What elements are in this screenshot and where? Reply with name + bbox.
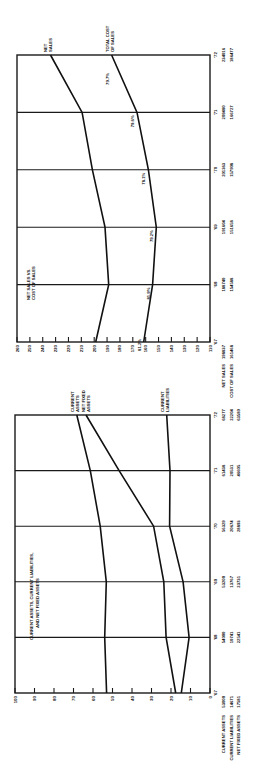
tick-label: 80 xyxy=(52,695,57,700)
tick-label: 140 xyxy=(169,344,174,352)
percent-annotation: 78.1% xyxy=(141,173,146,185)
row-value: 10741 xyxy=(229,631,234,643)
row-value: 61438 xyxy=(221,464,226,476)
tick-label: 0 xyxy=(208,695,213,698)
row-label: CURRENT LIABILITIES xyxy=(229,715,234,761)
chart-title: COST OF SALES xyxy=(31,266,36,300)
legend-net-fixed-assets: ASSETS xyxy=(86,395,91,412)
category-label: '72 xyxy=(213,411,218,417)
plot-frame xyxy=(15,415,210,693)
legend-cost-of-sales: OF SALES xyxy=(110,31,115,52)
category-label: '71 xyxy=(213,467,218,473)
percent-annotation: 79.6% xyxy=(130,115,135,127)
row-value: 53200 xyxy=(221,575,226,587)
row-value: 28893 xyxy=(236,520,241,532)
row-value: 20531 xyxy=(229,464,234,476)
row-value: 151658 xyxy=(229,220,234,235)
category-label: '67 xyxy=(213,689,218,695)
category-label: '71 xyxy=(213,109,218,115)
tick-label: 190 xyxy=(105,344,110,352)
row-label: COST OF SALES xyxy=(229,364,234,398)
chart-title: CURRENT ASSETS, CURRENT LIABILITIES, xyxy=(29,553,34,640)
series-line-current-assets xyxy=(77,415,107,693)
tick-label: 180 xyxy=(117,344,122,352)
tick-label: 40 xyxy=(130,695,135,700)
category-label: '69 xyxy=(213,578,218,584)
row-value: 166727 xyxy=(229,105,234,120)
series-line-net-fixed-assets xyxy=(86,415,176,693)
category-label: '67 xyxy=(213,338,218,344)
category-label: '72 xyxy=(213,51,218,57)
category-label: '68 xyxy=(213,281,218,287)
net-sales-chart: 1101201301401501601701801902002102202302… xyxy=(15,25,234,397)
row-label: CURRENT ASSETS xyxy=(221,715,226,753)
tick-label: 20 xyxy=(169,695,174,700)
tick-label: 130 xyxy=(182,344,187,352)
row-value: 23731 xyxy=(236,575,241,587)
tick-label: 230 xyxy=(53,344,58,352)
percent-annotation: 79.2% xyxy=(149,230,154,242)
row-value: 53000 xyxy=(221,695,226,707)
row-value: 157908 xyxy=(229,162,234,177)
tick-label: 30 xyxy=(149,695,154,700)
row-value: 154588 xyxy=(229,277,234,292)
tick-label: 160 xyxy=(143,344,148,352)
legend-current-liabilities: LIABILITIES xyxy=(165,388,170,412)
row-value: 198837 xyxy=(221,344,226,359)
tick-label: 70 xyxy=(71,695,76,700)
tick-label: 100 xyxy=(13,695,18,703)
series-line-net-sales xyxy=(51,55,109,342)
row-label: NET SALES xyxy=(221,364,226,388)
row-value: 22541 xyxy=(236,631,241,643)
tick-label: 120 xyxy=(195,344,200,352)
row-value: 54000 xyxy=(221,631,226,643)
tick-label: 250 xyxy=(27,344,32,352)
row-value: 13767 xyxy=(229,575,234,587)
row-value: 234016 xyxy=(221,47,226,62)
row-value: 191604 xyxy=(221,220,226,235)
tick-label: 90 xyxy=(32,695,37,700)
tick-label: 260 xyxy=(15,344,20,352)
tick-label: 10 xyxy=(188,695,193,700)
series-line-current-liabilities xyxy=(167,415,189,693)
percent-annotation: 79.7% xyxy=(105,73,110,85)
row-value: 56329 xyxy=(221,520,226,532)
percent-annotation: 81.2% xyxy=(137,339,142,351)
row-value: 46605 xyxy=(236,464,241,476)
row-value: 188740 xyxy=(221,277,226,292)
row-value: 22204 xyxy=(229,409,234,421)
row-value: 63589 xyxy=(236,409,241,421)
category-label: '70 xyxy=(213,166,218,172)
category-label: '68 xyxy=(213,634,218,640)
row-value: 68277 xyxy=(221,409,226,421)
plot-frame xyxy=(17,55,210,342)
category-label: '70 xyxy=(213,523,218,529)
tick-label: 150 xyxy=(156,344,161,352)
tick-label: 50 xyxy=(110,695,115,700)
category-label: '69 xyxy=(213,224,218,230)
row-value: 161468 xyxy=(229,344,234,359)
row-value: 14671 xyxy=(229,695,234,707)
legend-current-assets: ASSETS xyxy=(75,395,80,412)
tick-label: 200 xyxy=(92,344,97,352)
charts-page: 1101201301401501601701801902002102202302… xyxy=(0,0,265,770)
tick-label: 110 xyxy=(208,344,213,352)
row-value: 209480 xyxy=(221,105,226,120)
legend-net-sales: SALES xyxy=(48,38,53,52)
percent-annotation: 81.9% xyxy=(146,287,151,299)
row-value: 186477 xyxy=(229,47,234,62)
row-value: 201363 xyxy=(221,162,226,177)
row-label: NET FIXED ASSETS xyxy=(236,715,241,755)
chart-title: AND NET FIXED ASSETS xyxy=(35,578,40,628)
tick-label: 240 xyxy=(40,344,45,352)
row-value: 17581 xyxy=(236,695,241,707)
tick-label: 220 xyxy=(66,344,71,352)
tick-label: 170 xyxy=(130,344,135,352)
assets-liabilities-chart: 0102030405060708090100'67'68'69'70'71'72… xyxy=(13,388,242,761)
row-value: 20674 xyxy=(229,520,234,532)
tick-label: 60 xyxy=(91,695,96,700)
tick-label: 210 xyxy=(79,344,84,352)
